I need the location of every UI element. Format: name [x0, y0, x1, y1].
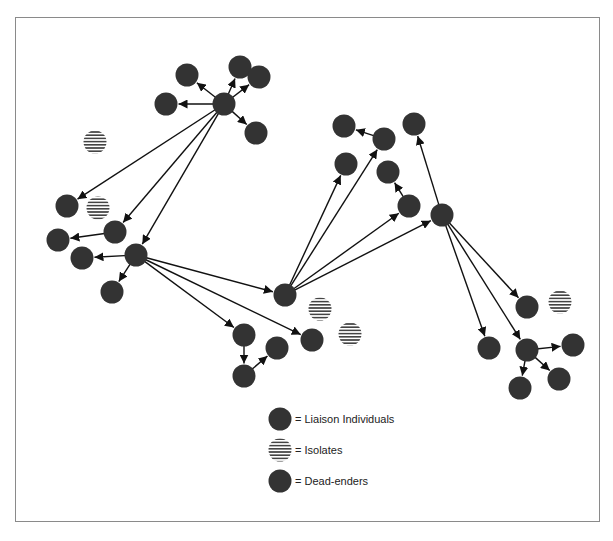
- dead-ender-node: [266, 337, 289, 360]
- legend-label: = Isolates: [295, 444, 343, 456]
- dead-ender-node: [377, 161, 400, 184]
- liaison-node: [398, 195, 421, 218]
- dead-ender-node: [269, 470, 292, 493]
- liaison-node: [373, 128, 396, 151]
- liaison-node: [125, 244, 148, 267]
- liaison-node: [233, 365, 256, 388]
- network-diagram: = Liaison Individuals= Isolates= Dead-en…: [0, 0, 613, 541]
- dead-ender-node: [478, 337, 501, 360]
- dead-ender-node: [248, 66, 271, 89]
- isolate-node: [269, 439, 292, 462]
- isolate-node: [84, 131, 107, 154]
- edge-arrow: [291, 221, 431, 292]
- liaison-node: [516, 339, 539, 362]
- edge-arrow: [291, 213, 399, 291]
- liaison-node: [274, 284, 297, 307]
- liaison-node: [431, 204, 454, 227]
- isolate-node: [87, 197, 110, 220]
- dead-ender-node: [548, 368, 571, 391]
- edge-arrow: [77, 108, 218, 199]
- nodes-layer: [47, 56, 585, 400]
- edge-arrow: [94, 255, 129, 257]
- legend-label: = Liaison Individuals: [295, 413, 395, 425]
- isolate-node: [339, 323, 362, 346]
- edge-arrow: [446, 221, 521, 340]
- dead-ender-node: [245, 122, 268, 145]
- dead-ender-node: [403, 113, 426, 136]
- liaison-node: [213, 93, 236, 116]
- dead-ender-node: [176, 64, 199, 87]
- dead-ender-node: [101, 281, 124, 304]
- liaison-node: [233, 324, 256, 347]
- dead-ender-node: [509, 377, 532, 400]
- edge-arrow: [70, 233, 108, 238]
- legend-label: = Dead-enders: [295, 475, 369, 487]
- legend: = Liaison Individuals= Isolates= Dead-en…: [269, 408, 395, 493]
- legend-item-dead: = Dead-enders: [269, 470, 369, 493]
- edge-arrow: [418, 136, 440, 208]
- dead-ender-node: [333, 115, 356, 138]
- dead-ender-node: [516, 296, 539, 319]
- edge-arrow: [123, 109, 219, 222]
- dead-ender-node: [335, 153, 358, 176]
- isolate-node: [309, 298, 332, 321]
- legend-item-isolate: = Isolates: [269, 439, 343, 462]
- legend-item-liaison: = Liaison Individuals: [269, 408, 395, 431]
- liaison-node: [269, 408, 292, 431]
- dead-ender-node: [155, 93, 178, 116]
- edge-arrow: [288, 175, 341, 288]
- isolate-node: [549, 291, 572, 314]
- dead-ender-node: [47, 229, 70, 252]
- edge-arrow: [142, 110, 220, 244]
- dead-ender-node: [301, 329, 324, 352]
- dead-ender-node: [562, 334, 585, 357]
- edge-arrow: [289, 150, 378, 290]
- dead-ender-node: [71, 247, 94, 270]
- liaison-node: [104, 221, 127, 244]
- dead-ender-node: [56, 195, 79, 218]
